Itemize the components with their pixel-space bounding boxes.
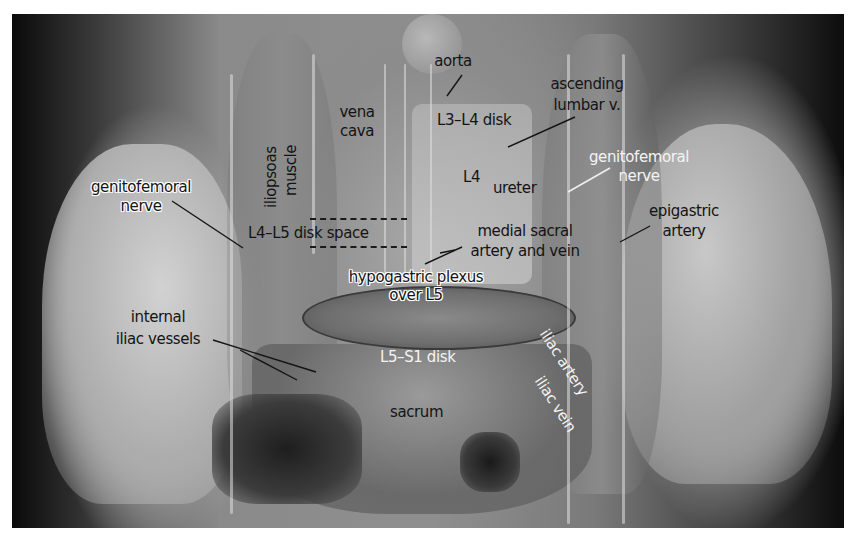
- label-ascending-lumbar-line2: lumbar v.: [542, 96, 632, 115]
- nerve-line: [230, 74, 233, 514]
- label-l4: L4: [463, 168, 480, 187]
- label-internal-iliac-line1: internal: [104, 308, 212, 327]
- label-hypogastric-line2: over L5: [328, 286, 504, 305]
- label-aorta: aorta: [430, 52, 476, 71]
- label-l4-l5-disk-space: L4–L5 disk space: [248, 224, 369, 243]
- label-vena-cava-line1: vena: [333, 103, 381, 122]
- label-vena-cava-line2: cava: [333, 122, 381, 141]
- label-genitofemoral-left-line1: genitofemoral: [76, 178, 206, 197]
- sacrum-shape: [252, 344, 592, 514]
- label-epigastric-line2: artery: [638, 222, 730, 241]
- label-hypogastric-line1: hypogastric plexus: [328, 268, 504, 287]
- label-ascending-lumbar-line1: ascending: [542, 75, 632, 94]
- label-iliopsoas-line1: iliopsoas: [262, 146, 281, 208]
- nerve-line: [622, 54, 625, 524]
- label-sacrum: sacrum: [390, 403, 443, 422]
- right-pelvic-shadow: [460, 432, 520, 492]
- label-medial-sacral-line1: medial sacral: [455, 222, 595, 241]
- label-l3-l4-disk: L3–L4 disk: [437, 111, 511, 130]
- nerve-line: [567, 54, 570, 524]
- label-l5-s1-disk: L5–S1 disk: [380, 348, 455, 367]
- label-epigastric-line1: epigastric: [638, 202, 730, 221]
- label-genitofemoral-right-line2: nerve: [575, 167, 703, 186]
- left-pelvic-shadow: [212, 394, 362, 504]
- label-ureter: ureter: [493, 179, 536, 198]
- label-iliopsoas-line2: muscle: [282, 145, 301, 196]
- label-genitofemoral-left-line2: nerve: [76, 197, 206, 216]
- label-genitofemoral-right-line1: genitofemoral: [575, 148, 703, 167]
- nerve-line: [430, 64, 432, 274]
- label-internal-iliac-line2: iliac vessels: [104, 330, 212, 349]
- left-psoas-shape: [227, 34, 337, 474]
- label-medial-sacral-line2: artery and vein: [455, 242, 595, 261]
